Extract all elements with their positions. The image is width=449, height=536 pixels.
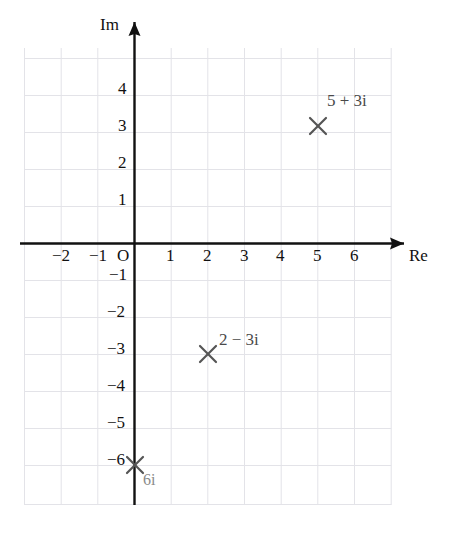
x-tick-label: 3 xyxy=(240,247,249,264)
y-tick-label: −4 xyxy=(107,377,125,394)
real-axis-arrowhead xyxy=(390,238,404,250)
point-label-5-plus-3i: 5 + 3i xyxy=(327,92,367,109)
y-tick-label: −3 xyxy=(107,340,125,357)
y-tick-label: 2 xyxy=(118,154,127,171)
y-tick-label: 4 xyxy=(118,80,127,97)
y-tick-label: −1 xyxy=(109,266,127,283)
real-axis xyxy=(20,238,404,250)
x-tick-label: 4 xyxy=(276,247,285,264)
x-tick-label: 6 xyxy=(350,247,359,264)
y-tick-label: −2 xyxy=(107,303,125,320)
imaginary-axis xyxy=(129,22,141,505)
imaginary-axis-arrowhead xyxy=(129,22,141,36)
imaginary-axis-label: Im xyxy=(100,16,119,33)
data-markers xyxy=(127,118,326,473)
x-tick-label: 1 xyxy=(166,247,175,264)
x-tick-label: 2 xyxy=(203,247,212,264)
origin-label: O xyxy=(117,247,129,264)
real-axis-label: Re xyxy=(409,247,428,264)
complex-plane-canvas xyxy=(0,0,449,536)
point-label-2-minus-3i: 2 − 3i xyxy=(219,331,259,348)
argand-diagram-figure: Im Re O −2 −1 1 2 3 4 5 6 4 3 2 1 −1 −2 … xyxy=(0,0,449,536)
y-tick-label: 3 xyxy=(118,117,127,134)
x-tick-label: 5 xyxy=(313,247,322,264)
point-label-6i: 6i xyxy=(143,472,155,488)
grid-lines xyxy=(25,48,392,505)
y-tick-label: −5 xyxy=(107,414,125,431)
y-tick-label: −6 xyxy=(107,451,125,468)
x-tick-label: −1 xyxy=(89,247,107,264)
x-tick-label: −2 xyxy=(52,247,70,264)
y-tick-label: 1 xyxy=(118,191,127,208)
